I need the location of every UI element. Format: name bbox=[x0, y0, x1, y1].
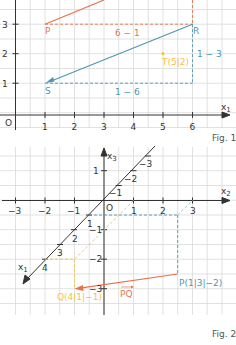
x2-tick-2: 2 bbox=[160, 206, 166, 216]
label-R: R bbox=[193, 26, 199, 36]
x2-tick-3: 3 bbox=[190, 206, 196, 216]
label-Q-3d: Q(4|1|−1) bbox=[57, 292, 102, 302]
y-tick-3: 3 bbox=[2, 20, 8, 30]
x1-tick-neg2: −2 bbox=[124, 174, 137, 184]
x-tick-5: 5 bbox=[160, 122, 166, 132]
fig1-caption: Fig. 1 bbox=[212, 133, 236, 143]
x2-tick-neg2: −2 bbox=[38, 206, 51, 216]
x1-tick-neg1: −1 bbox=[109, 188, 122, 198]
x-tick-4: 4 bbox=[131, 122, 137, 132]
x2-tick-neg1: −1 bbox=[67, 206, 80, 216]
label-P: P bbox=[45, 26, 51, 36]
label-S: S bbox=[45, 86, 51, 96]
y-tick-1: 1 bbox=[2, 79, 8, 89]
x3-tick-neg2: −2 bbox=[89, 254, 102, 264]
x1-axis-label: x1 bbox=[18, 262, 28, 274]
label-T: T(5|2) bbox=[161, 57, 189, 67]
orange-diff-label: 6 − 1 bbox=[115, 28, 140, 38]
figure-canvas: 3 2 1 O 1 2 3 4 5 6 x1 P R S T(5|2) 6 − … bbox=[0, 0, 236, 345]
y-tick-2: 2 bbox=[2, 49, 8, 59]
x-tick-1: 1 bbox=[42, 122, 48, 132]
x1-tick-1: 1 bbox=[87, 219, 93, 229]
x1-tick-3: 3 bbox=[57, 248, 63, 258]
fig2-axes bbox=[2, 146, 230, 315]
fig1-grid bbox=[0, 0, 236, 128]
fig2-grid bbox=[0, 147, 236, 315]
x1-tick-neg3: −3 bbox=[139, 159, 152, 169]
arrowhead-icon bbox=[46, 77, 55, 83]
x2-tick-neg3: −3 bbox=[8, 206, 21, 216]
x3-tick-1: 1 bbox=[93, 166, 99, 176]
fig2-tick-labels: −3 −2 −1 1 2 3 O 1 −1 −2 −3 1 2 3 4 −1 −… bbox=[8, 151, 231, 294]
x1-tick-2: 2 bbox=[72, 234, 78, 244]
x2-axis-label: x2 bbox=[221, 186, 231, 198]
point-T bbox=[161, 52, 164, 55]
fig2-caption: Fig. 2 bbox=[212, 329, 236, 339]
origin-label: O bbox=[5, 118, 12, 128]
fig2-origin-label: O bbox=[106, 203, 113, 213]
x1-tick-4: 4 bbox=[42, 263, 48, 273]
label-P-3d: P(1|3|−2) bbox=[179, 278, 222, 288]
x2-tick-1: 1 bbox=[131, 206, 137, 216]
vector-PQ-label: PQ bbox=[120, 289, 133, 299]
fig1-axes bbox=[0, 0, 230, 130]
x-tick-2: 2 bbox=[72, 122, 78, 132]
x-tick-3: 3 bbox=[101, 122, 107, 132]
arrowhead-icon bbox=[75, 285, 84, 291]
blue-diff-y-label: 1 − 3 bbox=[197, 49, 222, 59]
x3-axis-label: x3 bbox=[107, 151, 117, 163]
blue-diff-x-label: 1 − 6 bbox=[115, 87, 140, 97]
x-tick-6: 6 bbox=[190, 122, 196, 132]
